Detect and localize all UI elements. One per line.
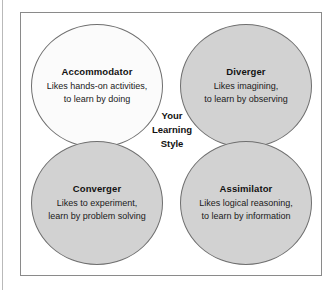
quadrant-desc-converger-line2: learn by problem solving: [48, 210, 146, 223]
quadrant-assimilator[interactable]: Assimilator Likes logical reasoning, to …: [180, 141, 312, 265]
quadrant-title-converger: Converger: [73, 183, 121, 194]
quadrant-title-diverger: Diverger: [226, 66, 265, 77]
quadrant-title-assimilator: Assimilator: [220, 183, 273, 194]
figure-frame: Accommodator Likes hands-on activities, …: [20, 12, 322, 276]
quadrant-desc-assimilator-line1: Likes logical reasoning,: [199, 197, 293, 210]
quadrant-converger[interactable]: Converger Likes to experiment, learn by …: [31, 141, 163, 265]
center-caption-line2: Learning: [129, 123, 215, 137]
center-caption-line3: Style: [129, 137, 215, 151]
page-edge-rule: [2, 0, 3, 290]
quadrant-desc-accommodator-line1: Likes hands-on activities,: [47, 80, 148, 93]
quadrant-desc-assimilator-line2: to learn by information: [201, 210, 290, 223]
diagram-canvas: Accommodator Likes hands-on activities, …: [0, 0, 336, 290]
center-caption: Your Learning Style: [129, 109, 215, 151]
quadrant-desc-diverger-line2: to learn by observing: [204, 93, 288, 106]
quadrant-desc-accommodator-line2: to learn by doing: [64, 93, 131, 106]
center-caption-line1: Your: [129, 109, 215, 123]
quadrant-title-accommodator: Accommodator: [62, 66, 133, 77]
quadrant-desc-diverger-line1: Likes imagining,: [214, 80, 279, 93]
quadrant-desc-converger-line1: Likes to experiment,: [57, 197, 138, 210]
quadrant-field: Accommodator Likes hands-on activities, …: [21, 13, 323, 277]
